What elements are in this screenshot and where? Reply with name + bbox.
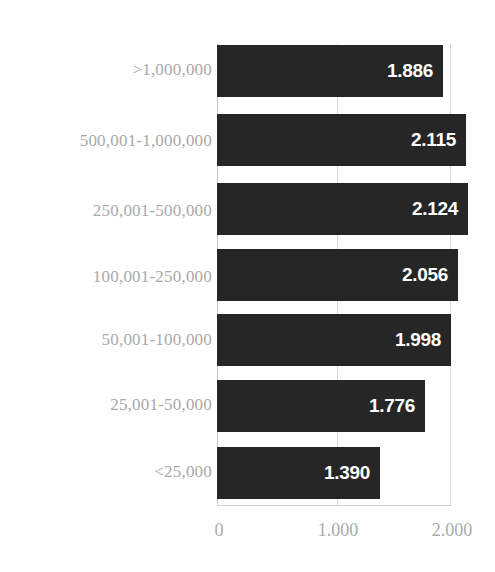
- bar-value-label-0: 1.886: [387, 60, 433, 82]
- plot-area: 1.886 2.115 2.124 2.056 1.998 1.776: [217, 44, 495, 506]
- bar-value-label-3: 2.056: [402, 264, 448, 286]
- bar-2[interactable]: 2.124: [217, 183, 468, 235]
- value-axis-baseline: [217, 505, 451, 506]
- category-label-4: 50,001-100,000: [7, 330, 212, 350]
- bar-value-label-2: 2.124: [412, 198, 458, 220]
- tick-label-0: 0: [215, 520, 224, 541]
- bar-1[interactable]: 2.115: [217, 114, 466, 166]
- bar-3[interactable]: 2.056: [217, 249, 458, 301]
- bar-value-label-4: 1.998: [395, 329, 441, 351]
- bar-value-label-5: 1.776: [369, 395, 415, 417]
- category-axis: >1,000,000 500,001-1,000,000 250,001-500…: [0, 0, 212, 572]
- category-label-3: 100,001-250,000: [7, 267, 212, 287]
- bar-4[interactable]: 1.998: [217, 314, 451, 366]
- category-label-6: <25,000: [7, 462, 212, 482]
- bar-0[interactable]: 1.886: [217, 45, 443, 97]
- category-label-1: 500,001-1,000,000: [7, 131, 212, 151]
- bar-5[interactable]: 1.776: [217, 380, 425, 432]
- category-label-2: 250,001-500,000: [7, 201, 212, 221]
- bar-value-label-1: 2.115: [411, 129, 456, 151]
- category-label-0: >1,000,000: [7, 60, 212, 80]
- bar-value-label-6: 1.390: [324, 462, 370, 484]
- tick-label-1000: 1.000: [318, 520, 359, 541]
- bar-chart: >1,000,000 500,001-1,000,000 250,001-500…: [0, 0, 495, 572]
- bar-6[interactable]: 1.390: [217, 447, 380, 499]
- value-axis-ticks: 0 1.000 2.000: [0, 520, 495, 550]
- tick-label-2000: 2.000: [432, 520, 473, 541]
- category-label-5: 25,001-50,000: [7, 395, 212, 415]
